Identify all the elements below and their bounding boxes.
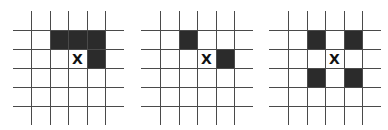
shaded-cell (344, 30, 363, 49)
grid-line (269, 49, 381, 50)
shaded-cell (344, 68, 363, 87)
grid-line (269, 68, 381, 69)
center-x-label: X (197, 49, 216, 68)
center-x-label: X (325, 49, 344, 68)
grid-line (141, 49, 253, 50)
shaded-cell (307, 68, 326, 87)
grid-line (141, 30, 253, 31)
grid-line (269, 87, 381, 88)
shaded-cell (307, 30, 326, 49)
grid-3: X (0, 0, 130, 130)
grid-line (269, 30, 381, 31)
grid-line (141, 106, 253, 107)
shaded-cell (216, 49, 235, 68)
grid-line (141, 87, 253, 88)
shaded-cell (179, 30, 198, 49)
grid-line (269, 106, 381, 107)
grid-line (141, 68, 253, 69)
